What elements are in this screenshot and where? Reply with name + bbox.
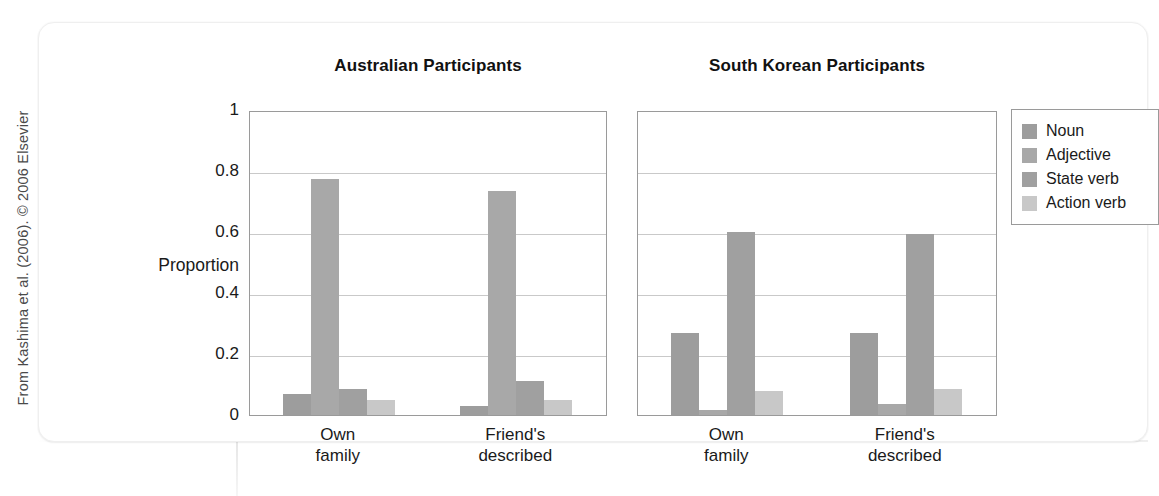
gridline	[250, 234, 606, 235]
legend-item-action-verb: Action verb	[1022, 191, 1146, 215]
y-tick-0-6: 0.6	[177, 222, 239, 242]
legend-label: Adjective	[1046, 147, 1111, 163]
x-group-label-line: described	[427, 446, 605, 467]
gridline	[250, 356, 606, 357]
panel-title-south-korean: South Korean Participants	[637, 56, 997, 76]
x-group-label-line: Friend's	[816, 425, 995, 446]
legend-label: Action verb	[1046, 195, 1126, 211]
bar	[755, 391, 783, 415]
plot-area-australian	[249, 111, 607, 416]
legend-item-state-verb: State verb	[1022, 167, 1146, 191]
bar	[934, 389, 962, 415]
x-group-label-line: Friend's	[427, 425, 605, 446]
bar	[311, 179, 339, 415]
bar	[544, 400, 572, 415]
x-group-label-line: Own	[249, 425, 427, 446]
bar	[878, 404, 906, 415]
bar	[906, 234, 934, 415]
y-tick-1: 1	[177, 100, 239, 120]
bar	[516, 381, 544, 415]
gridline	[250, 173, 606, 174]
y-tick-0-2: 0.2	[177, 344, 239, 364]
gridline	[638, 173, 996, 174]
x-group-label: Ownfamily	[637, 425, 816, 466]
gridline	[638, 234, 996, 235]
x-group-label-line: Own	[637, 425, 816, 446]
legend-label: State verb	[1046, 171, 1119, 187]
bar	[339, 389, 367, 415]
bar	[699, 410, 727, 415]
x-group-label-line: described	[816, 446, 995, 467]
bar	[488, 191, 516, 415]
page-fold-stem	[236, 441, 238, 496]
bar	[283, 394, 311, 415]
legend-label: Noun	[1046, 123, 1084, 139]
bar	[850, 333, 878, 415]
bar	[727, 232, 755, 415]
legend-swatch-icon	[1022, 172, 1037, 187]
y-tick-0-8: 0.8	[177, 161, 239, 181]
x-group-label-line: family	[637, 446, 816, 467]
x-group-label: Ownfamily	[249, 425, 427, 466]
y-axis-title: Proportion	[69, 255, 239, 276]
legend-swatch-icon	[1022, 148, 1037, 163]
chart-legend: NounAdjectiveState verbAction verb	[1011, 109, 1159, 225]
x-group-label-line: family	[249, 446, 427, 467]
bar	[460, 406, 488, 415]
x-group-label: Friend'sdescribed	[427, 425, 605, 466]
gridline	[250, 295, 606, 296]
copyright-credit: From Kashima et al. (2006). © 2006 Elsev…	[15, 93, 31, 423]
legend-swatch-icon	[1022, 124, 1037, 139]
panel-title-australian: Australian Participants	[249, 56, 607, 76]
x-group-label: Friend'sdescribed	[816, 425, 995, 466]
legend-item-noun: Noun	[1022, 119, 1146, 143]
plot-area-south-korean	[637, 111, 997, 416]
y-tick-0-4: 0.4	[177, 283, 239, 303]
bar	[367, 400, 395, 415]
y-tick-0: 0	[177, 405, 239, 425]
bar	[671, 333, 699, 415]
legend-swatch-icon	[1022, 196, 1037, 211]
figure-card: Australian Participants South Korean Par…	[38, 22, 1148, 442]
gridline	[638, 295, 996, 296]
legend-item-adjective: Adjective	[1022, 143, 1146, 167]
